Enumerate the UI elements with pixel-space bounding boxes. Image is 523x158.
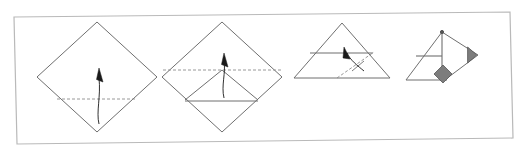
- origami-instruction-figure: [0, 0, 523, 158]
- figure-container: [0, 0, 523, 158]
- panel-4-apex-dot: [440, 30, 443, 33]
